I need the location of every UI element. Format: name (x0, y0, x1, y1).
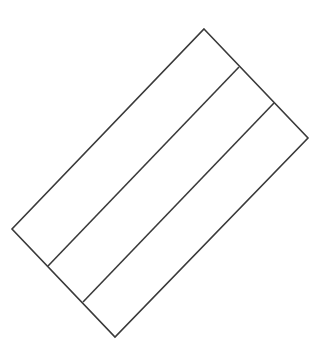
diagram-canvas (0, 0, 332, 340)
background (0, 0, 332, 340)
